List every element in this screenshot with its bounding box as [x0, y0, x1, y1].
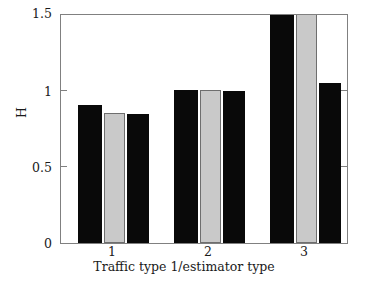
y-tick-label-0-5: 0.5 [0, 162, 52, 175]
x-tick-label-1: 1 [92, 246, 132, 259]
y-tick-mark-right-1 [341, 90, 347, 91]
bar-group3-series3 [319, 83, 341, 243]
x-tick-label-3: 3 [284, 246, 324, 259]
y-tick-label-0: 0 [0, 238, 52, 251]
y-tick-label-1-5: 1.5 [0, 8, 52, 21]
bar-group2-series1 [174, 90, 198, 243]
plot-area [60, 14, 348, 244]
y-tick-label-1: 1 [0, 86, 52, 99]
bar-group3-series1 [270, 14, 294, 243]
x-axis-title: Traffic type 1/estimator type [0, 259, 368, 274]
bar-group1-series1 [78, 105, 102, 243]
bar-group1-series3 [127, 114, 149, 243]
y-tick-mark-0-5 [61, 166, 67, 167]
bar-group2-series2 [200, 90, 221, 243]
bar-group3-series2 [296, 14, 317, 243]
y-axis-title: H [14, 107, 29, 118]
x-tick-label-2: 2 [188, 246, 228, 259]
y-tick-mark-1 [61, 90, 67, 91]
bar-chart-figure: 0 0.5 1 1.5 H 1 2 3 Traffic type 1/estim… [0, 0, 368, 281]
bar-group1-series2 [104, 113, 125, 243]
y-tick-mark-right-0-5 [341, 166, 347, 167]
bar-group2-series3 [223, 91, 245, 243]
